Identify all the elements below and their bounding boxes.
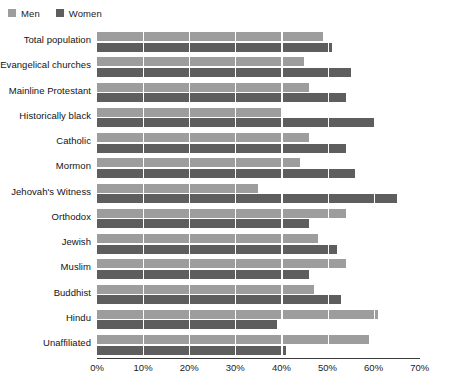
category-label: Unaffiliated	[0, 337, 91, 348]
bar-men	[97, 335, 369, 344]
category-label: Jehovah's Witness	[0, 186, 91, 197]
x-tick-label: 70%	[410, 362, 429, 373]
category-label: Catholic	[0, 135, 91, 146]
bar-men	[97, 108, 281, 117]
x-tick-label: 0%	[90, 362, 104, 373]
category-label: Jewish	[0, 236, 91, 247]
bar-men	[97, 209, 346, 218]
chart-row: Unaffiliated	[0, 333, 451, 358]
bar-group	[97, 30, 451, 55]
bar-women	[97, 219, 309, 228]
bar-men	[97, 158, 300, 167]
x-tick-label: 20%	[180, 362, 199, 373]
bar-men	[97, 285, 314, 294]
chart-legend: Men Women	[8, 6, 102, 20]
category-label: Mainline Protestant	[0, 85, 91, 96]
bar-group	[97, 308, 451, 333]
bar-men	[97, 184, 258, 193]
x-tick-label: 60%	[364, 362, 383, 373]
bar-group	[97, 232, 451, 257]
category-label: Total population	[0, 34, 91, 45]
bar-women	[97, 245, 337, 254]
x-tick-label: 50%	[318, 362, 337, 373]
chart-row: Total population	[0, 30, 451, 55]
chart-row: Jewish	[0, 232, 451, 257]
chart-row: Orthodox	[0, 207, 451, 232]
chart-row: Jehovah's Witness	[0, 182, 451, 207]
bar-men	[97, 234, 318, 243]
category-label: Orthodox	[0, 211, 91, 222]
chart-row: Catholic	[0, 131, 451, 156]
bar-men	[97, 57, 304, 66]
bar-women	[97, 169, 355, 178]
bar-women	[97, 320, 277, 329]
square-swatch-icon	[56, 9, 64, 17]
gender-composition-bar-chart: Men Women Total populationEvangelical ch…	[0, 0, 451, 390]
legend-item-men: Men	[8, 8, 40, 19]
bar-group	[97, 333, 451, 358]
bar-women	[97, 144, 346, 153]
category-label: Muslim	[0, 261, 91, 272]
bar-group	[97, 106, 451, 131]
category-label: Mormon	[0, 160, 91, 171]
legend-label-women: Women	[69, 8, 102, 19]
bar-men	[97, 259, 346, 268]
x-axis-tick-labels: 0%10%20%30%40%50%60%70%	[0, 362, 451, 382]
chart-row: Buddhist	[0, 283, 451, 308]
bar-group	[97, 131, 451, 156]
bar-group	[97, 156, 451, 181]
bar-women	[97, 270, 309, 279]
bar-group	[97, 257, 451, 282]
category-label: Historically black	[0, 110, 91, 121]
bar-men	[97, 83, 309, 92]
bar-women	[97, 346, 286, 355]
x-axis-line	[97, 358, 420, 359]
chart-row: Historically black	[0, 106, 451, 131]
legend-label-men: Men	[21, 8, 40, 19]
category-label: Evangelical churches	[0, 59, 91, 70]
x-tick-label: 30%	[226, 362, 245, 373]
square-swatch-icon	[8, 9, 16, 17]
bar-women	[97, 43, 332, 52]
chart-row: Muslim	[0, 257, 451, 282]
category-label: Buddhist	[0, 287, 91, 298]
bar-men	[97, 32, 323, 41]
chart-row: Mormon	[0, 156, 451, 181]
bar-group	[97, 283, 451, 308]
bar-group	[97, 207, 451, 232]
bar-women	[97, 118, 374, 127]
x-tick-label: 10%	[134, 362, 153, 373]
x-tick-label: 40%	[272, 362, 291, 373]
bar-group	[97, 182, 451, 207]
bar-tick	[374, 106, 375, 131]
bar-women	[97, 295, 341, 304]
chart-rows: Total populationEvangelical churchesMain…	[0, 30, 451, 358]
bar-women	[97, 194, 397, 203]
category-label: Hindu	[0, 312, 91, 323]
bar-women	[97, 68, 351, 77]
bar-men	[97, 310, 378, 319]
chart-row: Evangelical churches	[0, 55, 451, 80]
bar-women	[97, 93, 346, 102]
bar-men	[97, 133, 309, 142]
bar-group	[97, 81, 451, 106]
bar-group	[97, 55, 451, 80]
chart-row: Hindu	[0, 308, 451, 333]
chart-row: Mainline Protestant	[0, 81, 451, 106]
legend-item-women: Women	[56, 8, 102, 19]
